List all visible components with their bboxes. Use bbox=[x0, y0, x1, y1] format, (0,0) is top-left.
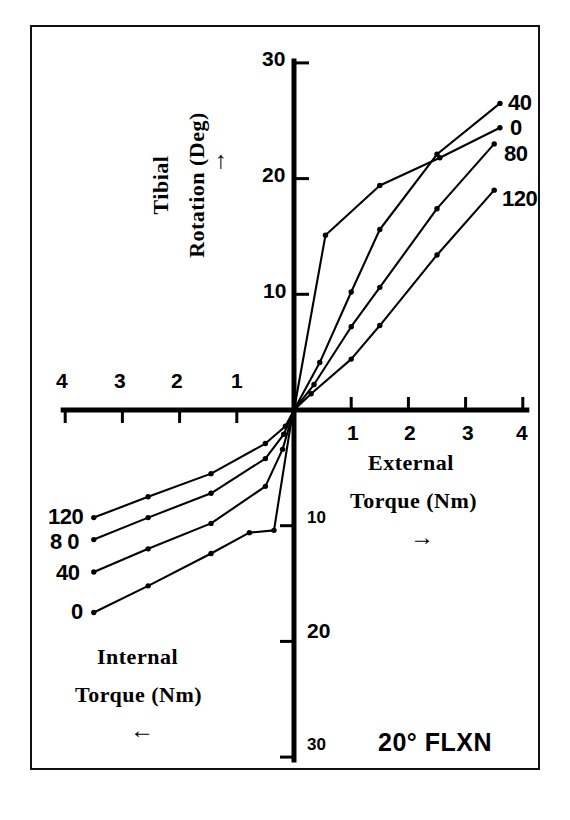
data-point-40 bbox=[349, 289, 354, 294]
data-point-80 bbox=[492, 141, 497, 146]
data-point-0 bbox=[377, 183, 382, 188]
data-point-0 bbox=[91, 610, 96, 615]
data-point-120 bbox=[377, 323, 382, 328]
data-point-80 bbox=[434, 206, 439, 211]
flexion-annotation: 20° FLXN bbox=[378, 730, 492, 755]
y-tick-label-10: 10 bbox=[263, 280, 286, 301]
y-axis-title-line2: Rotation (Deg) bbox=[186, 60, 208, 310]
curve-label-lower-40: 40 bbox=[56, 562, 79, 584]
curve-label-lower-0: 0 bbox=[71, 601, 83, 623]
data-point-40 bbox=[145, 546, 150, 551]
data-point-80 bbox=[263, 456, 268, 461]
y-tick-label-minus-30: 30 bbox=[307, 736, 326, 753]
data-point-40 bbox=[317, 360, 322, 365]
data-point-80 bbox=[145, 515, 150, 520]
data-point-120 bbox=[349, 356, 354, 361]
data-point-0 bbox=[497, 125, 502, 130]
data-point-40 bbox=[497, 101, 502, 106]
data-point-40 bbox=[91, 569, 96, 574]
data-point-0 bbox=[323, 233, 328, 238]
data-point-80 bbox=[281, 432, 286, 437]
x-tick-label-left-3: 3 bbox=[114, 370, 126, 391]
x-axis-left-direction-arrow: ← bbox=[130, 718, 154, 742]
data-point-80 bbox=[208, 491, 213, 496]
data-point-80 bbox=[311, 382, 316, 387]
x-axis-right-title-line1: External bbox=[368, 452, 454, 474]
data-point-40 bbox=[208, 521, 213, 526]
y-axis-title-line1: Tibial bbox=[150, 60, 172, 310]
x-axis-left-title-line2: Torque (Nm) bbox=[75, 684, 202, 706]
data-point-0 bbox=[271, 528, 276, 533]
figure-container: Tibial Rotation (Deg) ↑ 30 20 10 10 20 3… bbox=[0, 0, 570, 820]
curve-label-upper-80: 80 bbox=[504, 143, 527, 165]
x-tick-label-left-1: 1 bbox=[231, 370, 243, 391]
curve-label-upper-0: 0 bbox=[510, 117, 522, 139]
data-point-40 bbox=[280, 447, 285, 452]
y-tick-label-20: 20 bbox=[262, 164, 285, 185]
data-point-120 bbox=[91, 515, 96, 520]
x-axis-left-title-line1: Internal bbox=[97, 646, 178, 668]
x-axis-right-direction-arrow: → bbox=[410, 525, 434, 549]
x-tick-label-right-1: 1 bbox=[347, 422, 359, 443]
data-point-120 bbox=[283, 423, 288, 428]
curve-label-lower-80: 8 0 bbox=[50, 531, 79, 553]
y-tick-label-minus-10: 10 bbox=[307, 509, 326, 526]
data-point-80 bbox=[377, 285, 382, 290]
x-tick-label-right-2: 2 bbox=[404, 422, 416, 443]
data-point-80 bbox=[349, 324, 354, 329]
x-axis-right-title-line2: Torque (Nm) bbox=[350, 490, 477, 512]
curve-label-lower-120: 120 bbox=[48, 506, 83, 528]
y-tick-label-30: 30 bbox=[262, 48, 285, 69]
data-point-120 bbox=[263, 441, 268, 446]
curve-label-upper-120: 120 bbox=[502, 188, 537, 210]
x-tick-label-left-4: 4 bbox=[56, 370, 68, 391]
data-point-120 bbox=[308, 391, 313, 396]
data-point-120 bbox=[208, 471, 213, 476]
data-point-40 bbox=[434, 152, 439, 157]
data-point-0 bbox=[145, 583, 150, 588]
x-tick-label-left-2: 2 bbox=[171, 370, 183, 391]
data-point-120 bbox=[145, 494, 150, 499]
data-point-80 bbox=[91, 537, 96, 542]
data-point-0 bbox=[247, 530, 252, 535]
data-point-120 bbox=[492, 187, 497, 192]
x-tick-label-right-4: 4 bbox=[516, 422, 528, 443]
data-point-120 bbox=[434, 252, 439, 257]
y-tick-label-minus-20: 20 bbox=[307, 620, 330, 641]
y-axis-title: Tibial Rotation (Deg) bbox=[96, 0, 356, 60]
data-point-40 bbox=[263, 484, 268, 489]
curve-label-upper-40: 40 bbox=[508, 92, 531, 114]
data-point-40 bbox=[377, 227, 382, 232]
y-axis-direction-arrow: ↑ bbox=[215, 148, 227, 172]
data-point-0 bbox=[208, 551, 213, 556]
x-tick-label-right-3: 3 bbox=[462, 422, 474, 443]
